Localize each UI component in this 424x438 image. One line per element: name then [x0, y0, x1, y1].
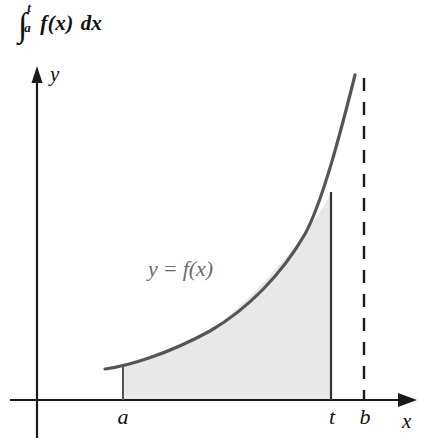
x-axis-arrowhead [398, 393, 417, 407]
shaded-area-under-curve [123, 193, 331, 400]
curve-equation-label: y=f(x) [148, 258, 213, 280]
integral-area-figure: ∫taf(x)dx y x a t b y=f(x) [0, 0, 424, 438]
y-axis-arrowhead [32, 66, 43, 83]
tick-label-t: t [320, 406, 344, 428]
curve-label-equals: = [163, 256, 178, 281]
tick-label-b: b [353, 406, 377, 428]
curve-label-fx: f(x) [183, 256, 214, 281]
x-axis-label: x [402, 411, 411, 432]
curve-label-y: y [148, 256, 158, 281]
plot-canvas [0, 0, 424, 438]
tick-label-a: a [111, 406, 135, 428]
y-axis-label: y [50, 64, 59, 85]
